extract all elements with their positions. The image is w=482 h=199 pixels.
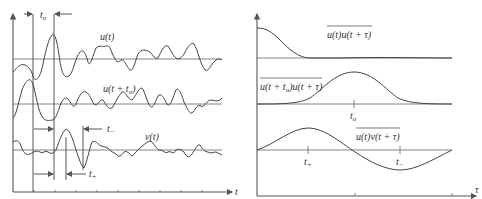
right-panel: τ u(t)u(t + τ) to u(t + to)u(t + τ) t+ t… — [257, 14, 479, 196]
tminus-label: t− — [107, 123, 115, 136]
right-x-axis-label: τ — [475, 184, 479, 195]
u-signal-label: u(t) — [100, 31, 115, 43]
crosscorr-curve — [257, 128, 452, 170]
v-signal-label: v(t) — [145, 131, 160, 143]
crosscorr-label: u(t)v(t + τ) — [356, 131, 400, 143]
crosscorr-tminus-label: t− — [396, 156, 404, 169]
u-shift-signal-label: u(t + to) — [103, 83, 136, 96]
autocorr-label: u(t)u(t + τ) — [327, 29, 372, 41]
shifted-corr-tick-label: to — [350, 110, 357, 123]
left-panel: t to t− t+ u(t) u(t + to) v(t) — [13, 9, 238, 197]
v-signal-curve — [13, 129, 222, 168]
shifted-corr-label: u(t + to)u(t + τ) — [260, 81, 323, 94]
to-label: to — [40, 9, 47, 22]
correlation-diagram: t to t− t+ u(t) u(t + to) v(t) — [0, 0, 482, 199]
tplus-label: t+ — [89, 168, 97, 181]
u-signal-curve — [13, 35, 222, 80]
crosscorr-tplus-label: t+ — [304, 156, 312, 169]
left-x-axis-label: t — [235, 186, 238, 197]
